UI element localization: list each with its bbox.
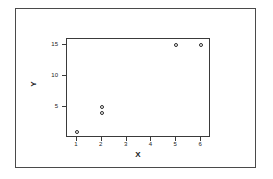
y-tick xyxy=(62,75,66,76)
y-tick xyxy=(62,44,66,45)
data-point xyxy=(174,43,178,47)
data-point xyxy=(100,111,104,115)
x-tick-label: 5 xyxy=(174,141,177,147)
plot-area xyxy=(67,39,209,136)
data-point xyxy=(75,130,79,134)
y-tick-label: 5 xyxy=(55,103,58,109)
x-tick-label: 3 xyxy=(124,141,127,147)
data-point xyxy=(199,43,203,47)
x-tick-label: 1 xyxy=(74,141,77,147)
plot-frame xyxy=(66,38,210,137)
figure: 123456 51015 X Y xyxy=(0,0,273,179)
x-tick-label: 4 xyxy=(149,141,152,147)
y-axis-label: Y xyxy=(29,81,38,86)
x-axis-label: X xyxy=(135,150,140,159)
x-tick-label: 6 xyxy=(198,141,201,147)
x-tick-label: 2 xyxy=(99,141,102,147)
y-tick-label: 15 xyxy=(51,41,58,47)
y-tick-label: 10 xyxy=(51,72,58,78)
data-point xyxy=(100,105,104,109)
y-tick xyxy=(62,106,66,107)
